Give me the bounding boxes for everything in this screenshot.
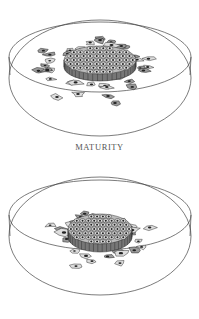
cell-nucleus bbox=[83, 213, 87, 215]
packed-cell-nucleus bbox=[96, 232, 98, 234]
cell-nucleus bbox=[146, 66, 149, 68]
packed-cell-nucleus bbox=[96, 71, 98, 73]
cell-nucleus bbox=[110, 44, 114, 46]
cell-nucleus bbox=[118, 262, 121, 264]
cell-nucleus bbox=[62, 231, 66, 233]
packed-cell-nucleus bbox=[102, 224, 104, 226]
packed-cell-nucleus bbox=[79, 67, 81, 69]
packed-cell-nucleus bbox=[79, 232, 81, 234]
packed-cell-nucleus bbox=[105, 220, 107, 222]
packed-cell-nucleus bbox=[92, 59, 94, 61]
packed-cell-nucleus bbox=[108, 224, 110, 226]
packed-cell-nucleus bbox=[119, 232, 121, 234]
packed-cell-nucleus bbox=[122, 236, 124, 238]
packed-cell-nucleus bbox=[128, 55, 130, 57]
packed-cell-nucleus bbox=[96, 55, 98, 57]
packed-cell-nucleus bbox=[70, 63, 72, 65]
packed-cell-nucleus bbox=[125, 224, 127, 226]
cell-nucleus bbox=[55, 96, 59, 98]
packed-cell-nucleus bbox=[102, 47, 104, 49]
packed-cell-nucleus bbox=[73, 232, 75, 234]
packed-cell-nucleus bbox=[96, 224, 98, 226]
cell-nucleus bbox=[49, 224, 52, 226]
packed-cell-nucleus bbox=[86, 67, 88, 69]
packed-cell-nucleus bbox=[87, 236, 89, 238]
packed-cell-nucleus bbox=[90, 232, 92, 234]
packed-cell-nucleus bbox=[96, 216, 98, 218]
packed-cell-nucleus bbox=[102, 232, 104, 234]
packed-cell-nucleus bbox=[112, 67, 114, 69]
packed-cell-nucleus bbox=[99, 59, 101, 61]
packed-cell-nucleus bbox=[96, 47, 98, 49]
packed-cell-nucleus bbox=[93, 236, 95, 238]
packed-cell-nucleus bbox=[89, 47, 91, 49]
cell-nucleus bbox=[137, 241, 140, 243]
packed-cell-nucleus bbox=[79, 51, 81, 53]
packed-cell-nucleus bbox=[109, 71, 111, 73]
packed-cell-nucleus bbox=[125, 67, 127, 69]
cell-nucleus bbox=[142, 69, 146, 71]
packed-cell-nucleus bbox=[70, 55, 72, 57]
packed-cell-nucleus bbox=[86, 51, 88, 53]
packed-cell-nucleus bbox=[76, 63, 78, 65]
figure-caption: MATURITY bbox=[0, 142, 199, 152]
packed-cell-nucleus bbox=[109, 63, 111, 65]
cell-nucleus bbox=[74, 265, 77, 267]
packed-cell-nucleus bbox=[99, 228, 101, 230]
packed-cell-nucleus bbox=[87, 228, 89, 230]
cell-colony-top bbox=[32, 36, 157, 106]
figure-illustration bbox=[0, 0, 199, 319]
cell-nucleus bbox=[73, 250, 76, 252]
packed-cell-nucleus bbox=[70, 228, 72, 230]
packed-cell-nucleus bbox=[83, 55, 85, 57]
packed-cell-nucleus bbox=[89, 63, 91, 65]
cell-nucleus bbox=[49, 78, 52, 80]
packed-cell-nucleus bbox=[122, 55, 124, 57]
cell-nucleus bbox=[45, 69, 49, 71]
packed-cell-nucleus bbox=[93, 228, 95, 230]
cell-nucleus bbox=[74, 81, 78, 83]
packed-cell-nucleus bbox=[119, 224, 121, 226]
packed-cell-nucleus bbox=[111, 220, 113, 222]
cell-nucleus bbox=[140, 246, 143, 248]
packed-cell-nucleus bbox=[125, 232, 127, 234]
packed-cell-nucleus bbox=[89, 71, 91, 73]
packed-cell-nucleus bbox=[102, 63, 104, 65]
packed-cell-nucleus bbox=[122, 228, 124, 230]
cell-nucleus bbox=[48, 60, 51, 62]
packed-cell-nucleus bbox=[102, 71, 104, 73]
packed-cell-nucleus bbox=[99, 51, 101, 53]
packed-cell-nucleus bbox=[114, 224, 116, 226]
packed-cell-nucleus bbox=[106, 51, 108, 53]
packed-cell-nucleus bbox=[99, 67, 101, 69]
packed-cell-nucleus bbox=[115, 55, 117, 57]
packed-cell-nucleus bbox=[109, 47, 111, 49]
cell-nucleus bbox=[119, 252, 123, 254]
packed-cell-nucleus bbox=[76, 55, 78, 57]
cell-colony-bottom bbox=[45, 211, 157, 268]
cell-nucleus bbox=[37, 70, 41, 72]
packed-cell-nucleus bbox=[132, 59, 134, 61]
packed-cell-nucleus bbox=[82, 236, 84, 238]
packed-cell-nucleus bbox=[73, 59, 75, 61]
cell-nucleus bbox=[106, 95, 110, 97]
packed-cell-nucleus bbox=[102, 216, 104, 218]
packed-cell-nucleus bbox=[89, 55, 91, 57]
packed-cell-nucleus bbox=[119, 51, 121, 53]
packed-cell-nucleus bbox=[76, 236, 78, 238]
cell-nucleus bbox=[105, 86, 109, 88]
packed-cell-nucleus bbox=[125, 59, 127, 61]
packed-cell-nucleus bbox=[108, 241, 110, 243]
cell-nucleus bbox=[113, 102, 117, 104]
packed-cell-nucleus bbox=[66, 59, 68, 61]
cell-nucleus bbox=[106, 255, 109, 257]
packed-cell-nucleus bbox=[106, 59, 108, 61]
spreading-cell bbox=[104, 255, 114, 258]
cell-nucleus bbox=[130, 86, 134, 88]
petri-dish-top bbox=[9, 20, 191, 136]
packed-cell-nucleus bbox=[84, 232, 86, 234]
packed-cell-nucleus bbox=[90, 216, 92, 218]
packed-cell-nucleus bbox=[108, 216, 110, 218]
packed-cell-nucleus bbox=[73, 51, 75, 53]
packed-cell-nucleus bbox=[112, 59, 114, 61]
